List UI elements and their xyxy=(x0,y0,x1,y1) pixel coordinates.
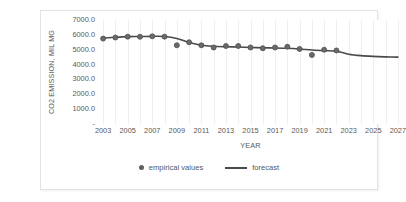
empirical-data-point xyxy=(174,43,179,48)
x-tick-label: 2017 xyxy=(267,126,283,136)
y-axis-title-label: CO2 EMISSION, MIL MG xyxy=(47,29,56,113)
line-marker-icon xyxy=(225,167,247,169)
dot-marker-icon xyxy=(139,165,144,170)
y-tick-label: - xyxy=(59,120,95,128)
legend-label-empirical: empirical values xyxy=(149,163,203,172)
empirical-data-point xyxy=(223,44,228,49)
x-tick-label: 2023 xyxy=(341,126,357,136)
empirical-data-point xyxy=(334,48,339,53)
x-tick-label: 2025 xyxy=(365,126,381,136)
y-tick-label: 7000.0 xyxy=(59,16,95,24)
x-tick-label: 2013 xyxy=(218,126,234,136)
x-axis-title: YEAR xyxy=(97,141,404,150)
empirical-data-point xyxy=(309,52,314,57)
x-tick-label: 2019 xyxy=(291,126,307,136)
legend-entry-forecast[interactable]: forecast xyxy=(225,163,279,172)
x-tick-label: 2015 xyxy=(242,126,258,136)
y-tick-label: 1000.0 xyxy=(59,105,95,113)
empirical-data-point xyxy=(125,34,130,39)
empirical-data-point xyxy=(297,46,302,51)
x-tick-label: 2021 xyxy=(316,126,332,136)
y-tick-label: 6000.0 xyxy=(59,31,95,39)
x-tick-label: 2011 xyxy=(193,126,209,136)
empirical-data-point xyxy=(150,34,155,39)
empirical-data-point xyxy=(211,45,216,50)
empirical-data-point xyxy=(199,43,204,48)
y-axis-ticks: -1000.02000.03000.04000.05000.06000.0700… xyxy=(59,17,95,125)
x-tick-label: 2027 xyxy=(390,126,406,136)
legend-entry-empirical[interactable]: empirical values xyxy=(139,163,203,172)
empirical-data-point xyxy=(236,44,241,49)
empirical-data-point xyxy=(187,40,192,45)
y-tick-label: 5000.0 xyxy=(59,46,95,54)
x-axis-ticks: 2003200520072009201120132015201720192021… xyxy=(97,126,404,138)
y-axis-title: CO2 EMISSION, MIL MG xyxy=(43,19,59,124)
x-tick-label: 2003 xyxy=(95,126,111,136)
empirical-data-point xyxy=(137,34,142,39)
empirical-data-point xyxy=(101,36,106,41)
legend-label-forecast: forecast xyxy=(252,163,279,172)
empirical-data-point xyxy=(162,34,167,39)
empirical-points-group xyxy=(101,34,339,58)
empirical-data-point xyxy=(322,47,327,52)
y-tick-label: 4000.0 xyxy=(59,61,95,69)
x-tick-label: 2005 xyxy=(119,126,135,136)
empirical-data-point xyxy=(285,44,290,49)
chart-svg xyxy=(97,20,404,124)
empirical-data-point xyxy=(273,45,278,50)
empirical-data-point xyxy=(248,45,253,50)
empirical-data-point xyxy=(113,35,118,40)
chart-legend: empirical values forecast xyxy=(41,163,377,172)
y-tick-label: 2000.0 xyxy=(59,90,95,98)
y-tick-label: 3000.0 xyxy=(59,75,95,83)
x-tick-label: 2007 xyxy=(144,126,160,136)
chart-container: CO2 EMISSION, MIL MG -1000.02000.03000.0… xyxy=(40,10,378,190)
plot-area xyxy=(97,20,404,124)
empirical-data-point xyxy=(260,46,265,51)
x-tick-label: 2009 xyxy=(169,126,185,136)
